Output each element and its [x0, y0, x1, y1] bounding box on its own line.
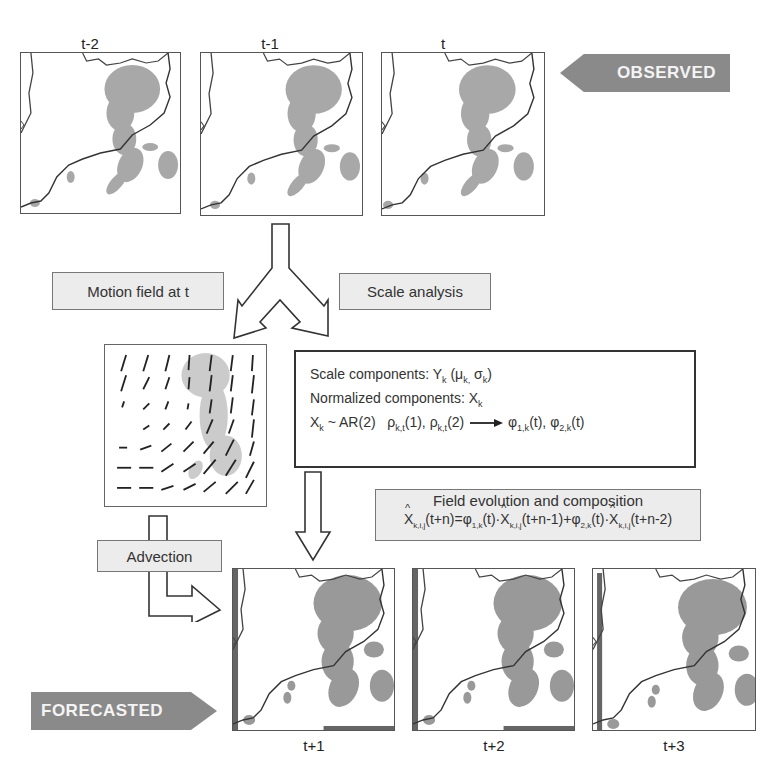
observed-map-t-1	[200, 52, 363, 216]
field-evolution-box: Field evolution and composition Xk,i,j(t…	[375, 489, 701, 541]
forecast-map-t+2	[412, 568, 575, 731]
map-label-t: t	[413, 35, 473, 52]
observed-map-t-2	[20, 52, 181, 214]
advection-box: Advection	[97, 540, 222, 572]
motion-field-map	[104, 344, 267, 507]
field-evolution-formula: Xk,i,j(t+n)=φ1,k(t)·Xk,i,j(t+n-1)+φ2,k(t…	[376, 511, 700, 530]
arrow-right-icon	[468, 418, 504, 428]
scale-model-box: Scale components: Yk (μk, σk) Normalized…	[294, 350, 696, 468]
scale-analysis-box: Scale analysis	[339, 273, 491, 310]
observed-tag-label: OBSERVED	[617, 63, 716, 83]
map-label-t-1: t-1	[240, 35, 300, 52]
down-arrow-icon	[294, 470, 334, 562]
motion-field-label: Motion field at t	[87, 283, 189, 300]
split-arrow-icon	[220, 220, 340, 340]
map-label-t+3: t+3	[644, 737, 704, 754]
map-label-t-2: t-2	[60, 35, 120, 52]
observed-map-t	[381, 52, 545, 216]
forecast-map-t+3	[592, 568, 756, 731]
map-label-t+2: t+2	[464, 737, 524, 754]
motion-field-box: Motion field at t	[52, 272, 224, 310]
scale-components-line: Scale components: Yk (μk, σk)	[310, 362, 680, 386]
ar2-line: Xk ~ AR(2) ρk,t(1), ρk,t(2) φ1,k(t), φ2,…	[310, 410, 680, 434]
advection-label: Advection	[127, 548, 193, 565]
forecast-map-t+1	[232, 568, 395, 731]
map-label-t+1: t+1	[284, 737, 344, 754]
observed-tag: OBSERVED	[560, 54, 730, 92]
motion-vectors-icon	[105, 345, 266, 506]
forecasted-tag-label: FORECASTED	[41, 701, 163, 721]
normalized-components-line: Normalized components: Xk	[310, 386, 680, 410]
forecasted-tag: FORECASTED	[31, 692, 217, 730]
field-evolution-title: Field evolution and composition	[376, 492, 700, 509]
scale-analysis-label: Scale analysis	[367, 283, 463, 300]
